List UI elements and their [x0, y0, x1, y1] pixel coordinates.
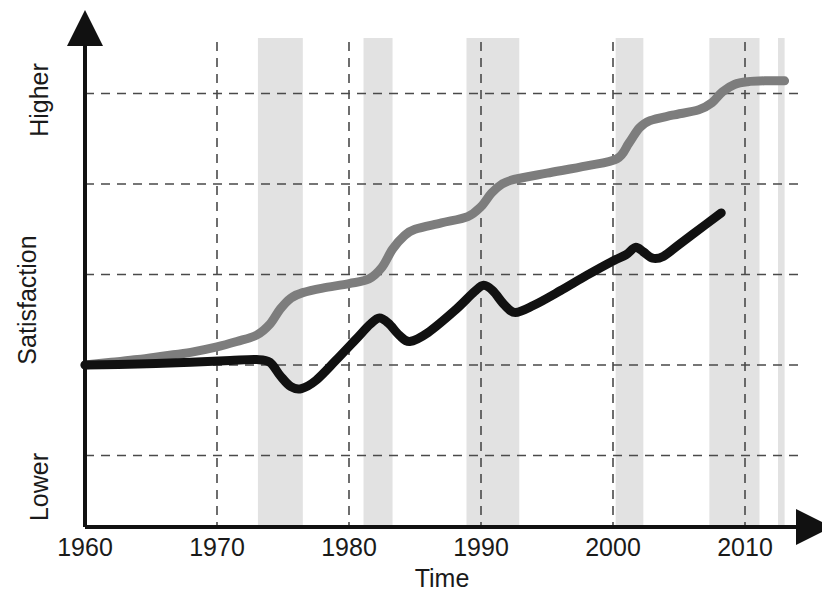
horizontal-gridlines	[85, 94, 800, 456]
y-axis-title: Satisfaction	[13, 235, 41, 364]
chart-canvas: 196019701980199020002010 Time Higher Low…	[0, 0, 822, 608]
y-axis-high-label: Higher	[25, 63, 53, 137]
x-tick-label: 1970	[189, 533, 245, 561]
satisfaction-over-time-chart: 196019701980199020002010 Time Higher Low…	[0, 0, 822, 608]
recession-band	[466, 38, 519, 527]
x-tick-label: 1960	[57, 533, 113, 561]
x-tick-label: 2010	[717, 533, 773, 561]
x-tick-label: 2000	[585, 533, 641, 561]
data-series-layer	[85, 81, 785, 389]
x-tick-label: 1990	[453, 533, 509, 561]
recession-band	[778, 38, 785, 527]
recession-band	[709, 38, 759, 527]
x-tick-labels: 196019701980199020002010	[57, 533, 773, 561]
x-tick-label: 1980	[321, 533, 377, 561]
y-axis-low-label: Lower	[25, 453, 53, 521]
x-axis-title: Time	[415, 564, 470, 592]
recession-band	[616, 38, 644, 527]
recession-band	[258, 38, 303, 527]
